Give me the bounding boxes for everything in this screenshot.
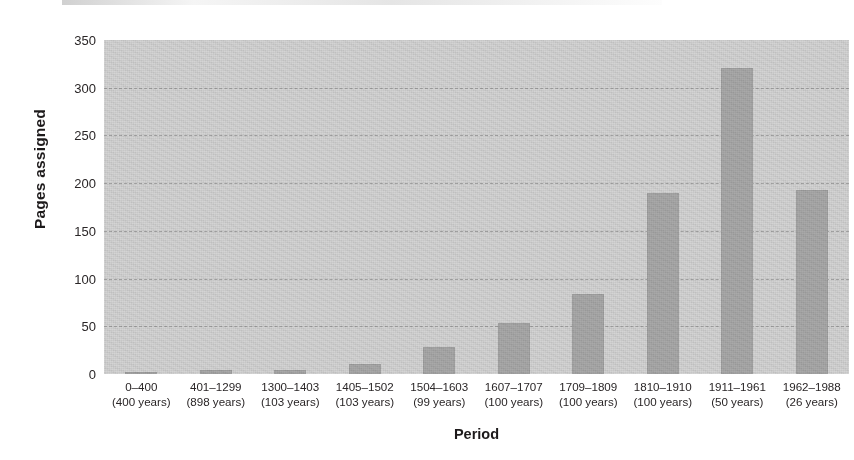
y-tick-label-200: 200 [56, 176, 96, 191]
bar [349, 364, 381, 374]
x-tick-duration: (898 years) [179, 394, 254, 409]
x-tick-label: 1810–1910(100 years) [626, 379, 701, 409]
x-tick-duration: (26 years) [775, 394, 850, 409]
x-tick-label: 1962–1988(26 years) [775, 379, 850, 409]
x-tick-duration: (103 years) [253, 394, 328, 409]
x-tick-label: 1300–1403(103 years) [253, 379, 328, 409]
bar [423, 347, 455, 374]
x-tick-range: 1962–1988 [775, 379, 850, 394]
x-tick-duration: (50 years) [700, 394, 775, 409]
x-tick-range: 0–400 [104, 379, 179, 394]
y-tick-label-100: 100 [56, 271, 96, 286]
x-axis-tick-labels: 0–400(400 years)401–1299(898 years)1300–… [104, 379, 849, 419]
bar [796, 190, 828, 374]
y-axis-tick-labels: 350300250200150100500 [50, 40, 96, 374]
x-tick-label: 1504–1603(99 years) [402, 379, 477, 409]
x-tick-range: 1810–1910 [626, 379, 701, 394]
bar [721, 68, 753, 374]
x-tick-label: 1709–1809(100 years) [551, 379, 626, 409]
x-tick-duration: (100 years) [626, 394, 701, 409]
bar-chart-figure: Pages assigned 350300250200150100500 0–4… [0, 0, 854, 460]
x-tick-label: 401–1299(898 years) [179, 379, 254, 409]
plot-area [104, 40, 849, 374]
x-tick-range: 1300–1403 [253, 379, 328, 394]
bar [498, 323, 530, 374]
x-tick-range: 1709–1809 [551, 379, 626, 394]
x-tick-range: 1504–1603 [402, 379, 477, 394]
x-tick-label: 1607–1707(100 years) [477, 379, 552, 409]
bar [647, 193, 679, 374]
x-tick-label: 1405–1502(103 years) [328, 379, 403, 409]
y-axis-title: Pages assigned [31, 79, 49, 259]
x-tick-duration: (103 years) [328, 394, 403, 409]
y-tick-label-250: 250 [56, 128, 96, 143]
y-tick-label-350: 350 [56, 33, 96, 48]
y-tick-label-300: 300 [56, 80, 96, 95]
y-tick-label-0: 0 [56, 367, 96, 382]
y-tick-label-50: 50 [56, 319, 96, 334]
x-tick-range: 401–1299 [179, 379, 254, 394]
bar [274, 370, 306, 374]
x-tick-range: 1405–1502 [328, 379, 403, 394]
x-axis-title: Period [104, 426, 849, 442]
x-tick-range: 1607–1707 [477, 379, 552, 394]
y-tick-label-150: 150 [56, 223, 96, 238]
x-tick-duration: (400 years) [104, 394, 179, 409]
x-tick-duration: (100 years) [551, 394, 626, 409]
x-tick-label: 0–400(400 years) [104, 379, 179, 409]
x-tick-duration: (100 years) [477, 394, 552, 409]
bar [572, 294, 604, 374]
bar [200, 370, 232, 374]
x-tick-range: 1911–1961 [700, 379, 775, 394]
bar [125, 372, 157, 374]
x-tick-label: 1911–1961(50 years) [700, 379, 775, 409]
bars-group [104, 40, 849, 374]
x-tick-duration: (99 years) [402, 394, 477, 409]
